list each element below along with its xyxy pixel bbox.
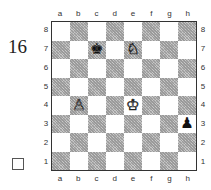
square-e7[interactable]: ♘ [124,41,142,60]
rank-label-5: 5 [199,82,207,91]
square-f5[interactable] [142,78,160,97]
square-g1[interactable] [160,152,178,171]
rank-label-4: 4 [42,100,50,109]
file-label-d: d [106,174,124,183]
square-h7[interactable] [178,41,196,60]
square-a4[interactable] [52,96,70,115]
square-b6[interactable] [70,59,88,78]
square-d1[interactable] [106,152,124,171]
square-c6[interactable] [88,59,106,78]
square-e3[interactable] [124,115,142,134]
file-label-a: a [51,9,69,18]
square-f6[interactable] [142,59,160,78]
square-e4[interactable]: ♔ [124,96,142,115]
square-g8[interactable] [160,22,178,41]
file-label-d: d [106,9,124,18]
file-label-f: f [142,9,160,18]
square-e1[interactable] [124,152,142,171]
square-g6[interactable] [160,59,178,78]
square-h3[interactable]: ♟ [178,115,196,134]
file-label-g: g [161,174,179,183]
rank-label-6: 6 [199,63,207,72]
square-c4[interactable] [88,96,106,115]
square-g4[interactable] [160,96,178,115]
square-d6[interactable] [106,59,124,78]
square-f2[interactable] [142,133,160,152]
square-a3[interactable] [52,115,70,134]
chess-board: ♚♘♙♔♟ [51,21,197,171]
rank-label-5: 5 [42,82,50,91]
file-label-g: g [161,9,179,18]
square-h6[interactable] [178,59,196,78]
square-a7[interactable] [52,41,70,60]
white-king-icon[interactable]: ♔ [126,98,139,113]
rank-label-7: 7 [199,44,207,53]
square-f4[interactable] [142,96,160,115]
square-f8[interactable] [142,22,160,41]
rank-label-2: 2 [42,138,50,147]
rank-label-2: 2 [199,138,207,147]
square-f7[interactable] [142,41,160,60]
square-d3[interactable] [106,115,124,134]
square-a1[interactable] [52,152,70,171]
square-h2[interactable] [178,133,196,152]
solved-checkbox[interactable] [12,158,24,170]
square-c1[interactable] [88,152,106,171]
square-b1[interactable] [70,152,88,171]
square-b5[interactable] [70,78,88,97]
rank-label-6: 6 [42,63,50,72]
square-g3[interactable] [160,115,178,134]
square-g2[interactable] [160,133,178,152]
square-h8[interactable] [178,22,196,41]
square-h1[interactable] [178,152,196,171]
square-d5[interactable] [106,78,124,97]
square-h5[interactable] [178,78,196,97]
square-g5[interactable] [160,78,178,97]
rank-label-3: 3 [42,119,50,128]
white-pawn-icon[interactable]: ♙ [72,98,85,113]
square-c2[interactable] [88,133,106,152]
square-d8[interactable] [106,22,124,41]
black-pawn-icon[interactable]: ♟ [180,116,193,131]
square-c5[interactable] [88,78,106,97]
square-a5[interactable] [52,78,70,97]
square-e2[interactable] [124,133,142,152]
rank-label-3: 3 [199,119,207,128]
file-label-h: h [179,9,197,18]
square-b2[interactable] [70,133,88,152]
square-a8[interactable] [52,22,70,41]
square-e6[interactable] [124,59,142,78]
square-h4[interactable] [178,96,196,115]
rank-label-8: 8 [42,25,50,34]
square-e8[interactable] [124,22,142,41]
square-c3[interactable] [88,115,106,134]
black-king-icon[interactable]: ♚ [90,42,103,57]
square-a2[interactable] [52,133,70,152]
square-b7[interactable] [70,41,88,60]
square-d2[interactable] [106,133,124,152]
square-f1[interactable] [142,152,160,171]
rank-label-1: 1 [42,157,50,166]
square-b3[interactable] [70,115,88,134]
file-label-f: f [142,174,160,183]
rank-label-7: 7 [42,44,50,53]
square-e5[interactable] [124,78,142,97]
file-label-c: c [88,9,106,18]
square-d4[interactable] [106,96,124,115]
square-a6[interactable] [52,59,70,78]
file-label-e: e [124,174,142,183]
square-c8[interactable] [88,22,106,41]
square-d7[interactable] [106,41,124,60]
square-f3[interactable] [142,115,160,134]
rank-label-4: 4 [199,100,207,109]
square-c7[interactable]: ♚ [88,41,106,60]
square-b4[interactable]: ♙ [70,96,88,115]
white-knight-icon[interactable]: ♘ [126,42,139,57]
square-b8[interactable] [70,22,88,41]
file-label-b: b [69,9,87,18]
file-label-a: a [51,174,69,183]
rank-label-8: 8 [199,25,207,34]
rank-label-1: 1 [199,157,207,166]
square-g7[interactable] [160,41,178,60]
file-label-c: c [88,174,106,183]
